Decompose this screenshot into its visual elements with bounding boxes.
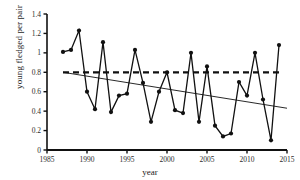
chart-figure: young fledged per pair year 00.20.40.60.… [0,0,300,180]
svg-text:0.8: 0.8 [32,68,42,77]
chart-plot-area: 00.20.40.60.811.21.4 1985199019952000200… [0,0,300,180]
svg-text:1.4: 1.4 [32,10,42,19]
y-axis-ticks: 00.20.40.60.811.21.4 [32,10,47,155]
svg-text:0.6: 0.6 [32,87,42,96]
trend-line [63,72,287,108]
svg-text:1.2: 1.2 [32,29,42,38]
data-series-line [63,31,279,141]
x-axis-ticks: 1985199019952000200520102015 [40,150,295,164]
svg-text:2005: 2005 [200,155,215,164]
svg-text:2010: 2010 [240,155,255,164]
data-point-markers [61,28,281,142]
svg-text:1990: 1990 [80,155,95,164]
svg-text:1985: 1985 [40,155,55,164]
svg-text:0.2: 0.2 [32,126,42,135]
svg-text:1: 1 [37,48,41,57]
svg-text:0.4: 0.4 [32,107,42,116]
svg-text:0: 0 [37,146,41,155]
svg-text:2015: 2015 [280,155,295,164]
svg-text:2000: 2000 [160,155,175,164]
svg-text:1995: 1995 [120,155,135,164]
